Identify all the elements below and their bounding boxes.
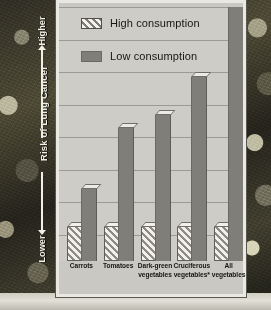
bar-low-1 [81,184,97,261]
bar-top-face [81,184,102,189]
y-axis-title: Risk of Lung Cancer [38,47,49,181]
bar-low-3 [155,110,171,261]
x-axis-label-line: All [205,262,252,271]
y-axis-lower-label: Lower [37,217,47,281]
chart-plot: High consumptionLow consumption CarrotsT… [59,3,243,294]
bar-group [210,7,243,261]
bar-low-2 [118,123,134,261]
bar-front-face [81,188,97,261]
chart-legend: High consumptionLow consumption [81,17,200,83]
bar-front-face [118,127,134,261]
chart-card: High consumptionLow consumption CarrotsT… [56,0,246,297]
bar-low-4 [191,72,207,261]
x-axis-label-5: Allvegetables [205,262,252,279]
legend-label-low: Low consumption [110,50,197,62]
legend-item-low: Low consumption [81,50,200,62]
bar-front-face [228,7,243,261]
legend-item-high: High consumption [81,17,200,29]
bar-top-face [155,110,176,115]
bar-top-face [118,123,139,128]
legend-label-high: High consumption [110,17,200,29]
x-axis-label-line: vegetables [205,271,252,280]
legend-swatch-high [81,18,102,29]
bar-low-5 [228,7,243,261]
y-axis: Higher Risk of Lung Cancer Lower [30,0,54,297]
legend-swatch-low [81,51,102,62]
bar-front-face [155,114,171,261]
bar-front-face [191,76,207,261]
x-axis-labels: CarrotsTomatoesDark-greenvegetablesCruci… [59,262,243,290]
